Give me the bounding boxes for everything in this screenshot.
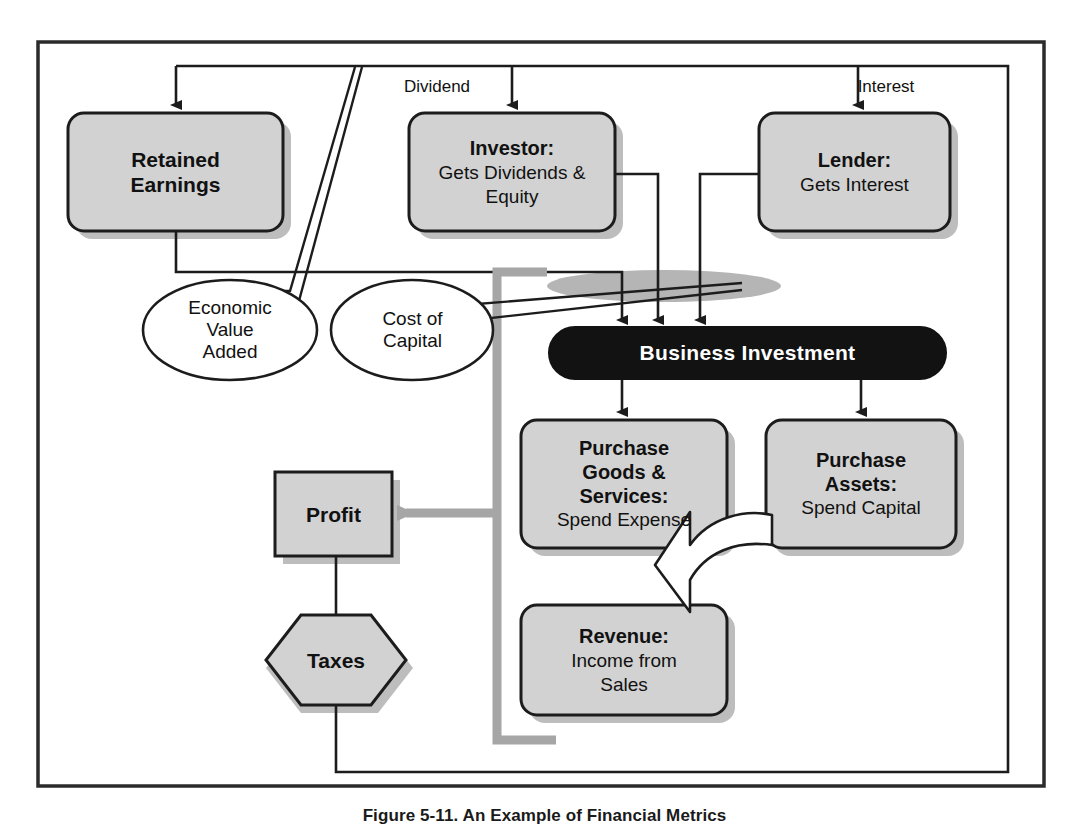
node-revenue[interactable] [521, 605, 727, 715]
node-purchase-assets[interactable] [766, 420, 956, 548]
node-purchase-goods-services[interactable] [521, 420, 727, 548]
node-investor[interactable] [409, 113, 615, 231]
node-lender[interactable] [759, 113, 950, 231]
node-profit[interactable] [275, 472, 392, 556]
business-investment-shadow [547, 270, 781, 302]
business-investment-to-children [622, 379, 861, 412]
top-bus-lines [512, 66, 858, 105]
figure-canvas: Retained Earnings Investor: Gets Dividen… [0, 0, 1089, 836]
node-economic-value-added[interactable] [143, 280, 317, 380]
node-business-investment[interactable] [549, 327, 946, 379]
node-retained-earnings[interactable] [68, 113, 283, 231]
diagram-svg [0, 0, 1089, 836]
node-cost-of-capital[interactable] [331, 280, 493, 380]
figure-caption: Figure 5-11. An Example of Financial Met… [0, 806, 1089, 826]
node-shapes [68, 113, 956, 715]
